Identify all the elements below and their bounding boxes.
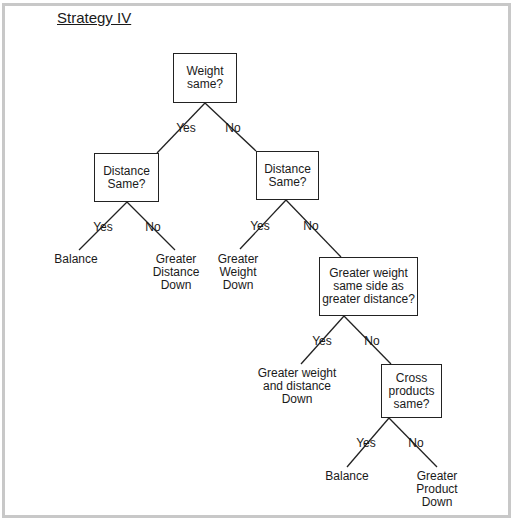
decision-distance-same-right: Distance Same?: [256, 151, 319, 200]
edge-label-yes: Yes: [356, 437, 376, 450]
outcome-greater-weight-down: Greater Weight Down: [218, 253, 259, 292]
outcome-balance-right: Balance: [325, 470, 368, 483]
outcome-balance-left: Balance: [54, 253, 97, 266]
edge-label-no: No: [303, 220, 318, 233]
edge-label-no: No: [225, 122, 240, 135]
edge-label-yes: Yes: [176, 122, 196, 135]
decision-greater-weight-same-side: Greater weight same side as greater dist…: [319, 257, 418, 316]
decision-distance-same-left: Distance Same?: [94, 153, 159, 202]
edge-label-yes: Yes: [93, 221, 113, 234]
edge-label-no: No: [145, 221, 160, 234]
edge-label-no: No: [364, 335, 379, 348]
decision-weight-same: Weight same?: [173, 53, 237, 103]
edge-label-yes: Yes: [312, 335, 332, 348]
edge-label-no: No: [408, 437, 423, 450]
outcome-greater-product-down: Greater Product Down: [416, 470, 457, 509]
decision-cross-products-same: Cross products same?: [381, 364, 442, 418]
outcome-greater-weight-and-distance-down: Greater weight and distance Down: [258, 367, 337, 406]
outcome-greater-distance-down: Greater Distance Down: [153, 253, 200, 292]
edge-label-yes: Yes: [250, 220, 270, 233]
